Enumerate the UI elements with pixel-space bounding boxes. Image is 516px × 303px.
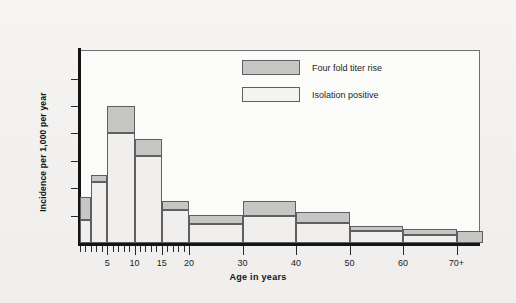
bar-segment-four-fold-titer-rise bbox=[296, 212, 350, 223]
x-tick-label-5: 5 bbox=[105, 258, 110, 268]
x-tick-label-15: 15 bbox=[157, 258, 167, 268]
x-minor-tick-19 bbox=[184, 246, 185, 252]
x-minor-tick-11 bbox=[140, 246, 141, 252]
legend-label: Four fold titer rise bbox=[312, 63, 382, 73]
bar-segment-four-fold-titer-rise bbox=[162, 201, 189, 211]
x-minor-tick-16 bbox=[167, 246, 168, 252]
y-tick-4 bbox=[71, 133, 78, 134]
x-major-tick-50 bbox=[350, 246, 351, 255]
x-major-tick-15 bbox=[162, 246, 163, 255]
x-minor-tick-9 bbox=[129, 246, 130, 252]
bar-15-20 bbox=[162, 201, 189, 243]
x-axis-line bbox=[78, 243, 480, 246]
x-major-tick-5 bbox=[107, 246, 108, 255]
x-minor-tick-18 bbox=[178, 246, 179, 252]
bar-70+ bbox=[457, 231, 484, 243]
x-minor-tick-8 bbox=[124, 246, 125, 252]
legend-item-isolation-positive: Isolation positive bbox=[242, 87, 379, 102]
x-tick-label-60: 60 bbox=[398, 258, 408, 268]
x-tick-label-50: 50 bbox=[344, 258, 354, 268]
bar-segment-isolation-positive bbox=[296, 223, 350, 243]
x-major-tick-10 bbox=[135, 246, 136, 255]
x-minor-tick-13 bbox=[151, 246, 152, 252]
bar-40-50 bbox=[296, 212, 350, 243]
bar-segment-isolation-positive bbox=[162, 210, 189, 243]
x-minor-tick-3 bbox=[96, 246, 97, 252]
x-tick-label-30: 30 bbox=[237, 258, 247, 268]
bar-10-15 bbox=[135, 139, 162, 243]
x-axis-title: Age in years bbox=[0, 272, 516, 282]
bar-segment-isolation-positive bbox=[107, 133, 134, 243]
x-minor-tick-12 bbox=[145, 246, 146, 252]
bar-segment-four-fold-titer-rise bbox=[189, 215, 243, 224]
bar-segment-isolation-positive bbox=[135, 156, 162, 243]
bar-20-30 bbox=[189, 215, 243, 243]
bar-segment-isolation-positive bbox=[91, 182, 107, 243]
legend-item-four-fold-titer-rise: Four fold titer rise bbox=[242, 60, 382, 75]
bar-5-10 bbox=[107, 106, 134, 243]
y-tick-1 bbox=[71, 216, 78, 217]
legend-swatch-gray bbox=[242, 60, 300, 75]
x-minor-tick-2 bbox=[91, 246, 92, 252]
bar-50-60 bbox=[350, 226, 404, 243]
bar-segment-isolation-positive bbox=[80, 220, 91, 243]
bar-0-2 bbox=[80, 197, 91, 243]
x-minor-tick-14 bbox=[156, 246, 157, 252]
bar-60-70 bbox=[403, 229, 457, 243]
bar-segment-isolation-positive bbox=[243, 216, 297, 243]
x-major-tick-30 bbox=[243, 246, 244, 255]
x-major-tick-20 bbox=[189, 246, 190, 255]
y-axis-title-text: Incidence per 1,000 per year bbox=[38, 92, 48, 211]
x-minor-tick-0 bbox=[80, 246, 81, 252]
legend-label: Isolation positive bbox=[312, 90, 379, 100]
bar-segment-four-fold-titer-rise bbox=[107, 106, 134, 133]
bar-segment-four-fold-titer-rise bbox=[91, 175, 107, 182]
y-tick-3 bbox=[71, 161, 78, 162]
stacked-histogram-chart: 123456 51015203040506070+ Four fold tite… bbox=[0, 0, 516, 303]
x-tick-label-10: 10 bbox=[129, 258, 139, 268]
x-tick-label-70plus: 70+ bbox=[449, 258, 464, 268]
x-minor-tick-6 bbox=[113, 246, 114, 252]
y-tick-5 bbox=[71, 106, 78, 107]
bar-segment-four-fold-titer-rise bbox=[80, 197, 91, 220]
figure-page: 123456 51015203040506070+ Four fold tite… bbox=[0, 0, 516, 303]
y-tick-2 bbox=[71, 188, 78, 189]
x-minor-tick-17 bbox=[173, 246, 174, 252]
bar-segment-four-fold-titer-rise bbox=[135, 139, 162, 156]
x-major-tick-70 bbox=[457, 246, 458, 255]
x-axis-title-text: Age in years bbox=[229, 272, 286, 282]
bar-segment-four-fold-titer-rise bbox=[243, 201, 297, 216]
x-minor-tick-1 bbox=[85, 246, 86, 252]
y-tick-6 bbox=[71, 79, 78, 80]
x-major-tick-60 bbox=[403, 246, 404, 255]
x-tick-label-40: 40 bbox=[291, 258, 301, 268]
x-tick-label-20: 20 bbox=[184, 258, 194, 268]
bar-30-40 bbox=[243, 201, 297, 243]
bar-segment-isolation-positive bbox=[189, 224, 243, 243]
x-minor-tick-4 bbox=[102, 246, 103, 252]
bar-segment-four-fold-titer-rise bbox=[457, 231, 484, 243]
y-axis-title: Incidence per 1,000 per year bbox=[36, 62, 50, 242]
bar-segment-isolation-positive bbox=[350, 231, 404, 243]
x-major-tick-40 bbox=[296, 246, 297, 255]
x-minor-tick-7 bbox=[118, 246, 119, 252]
legend-swatch-white bbox=[242, 87, 300, 102]
bar-2-5 bbox=[91, 175, 107, 243]
bar-segment-isolation-positive bbox=[403, 235, 457, 243]
